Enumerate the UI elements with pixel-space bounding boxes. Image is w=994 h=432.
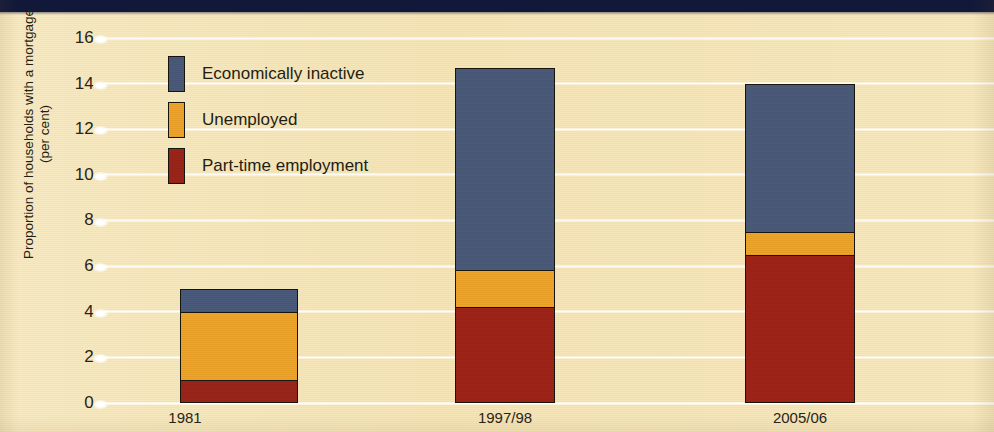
y-tick-mark-14 (93, 81, 108, 90)
bar-1981-segment-unemployed (180, 312, 298, 380)
legend-swatch-texture (169, 103, 184, 137)
y-axis-tick-labels: 16 14 12 10 8 6 4 2 0 (48, 38, 94, 403)
y-tick-mark-10 (93, 172, 108, 181)
y-tick-label-12: 12 (54, 119, 94, 139)
x-axis-label-1981: 1981 (120, 409, 250, 426)
legend-swatch-texture (169, 149, 184, 183)
legend-swatch-texture (169, 57, 184, 91)
y-tick-label-14: 14 (54, 74, 94, 94)
y-tick-mark-0 (93, 400, 108, 409)
bar-2005-06-segment-unemployed (745, 232, 855, 255)
x-axis-label-2005-06: 2005/06 (735, 409, 865, 426)
y-tick-label-8: 8 (54, 210, 94, 230)
bar-2005-06 (745, 84, 855, 403)
top-band-shadow (0, 12, 994, 15)
y-tick-label-10: 10 (54, 165, 94, 185)
y-tick-mark-12 (93, 126, 108, 135)
bar-1997-98-segment-economically-inactive (455, 68, 555, 270)
legend-label-part-time-employment: Part-time employment (202, 156, 368, 176)
y-axis-title-line-1: Proportion of households with a mortgage (21, 0, 37, 284)
legend-swatch-part-time-employment (168, 148, 185, 184)
segment-texture (456, 308, 554, 402)
legend-swatch-unemployed (168, 102, 185, 138)
bar-1981-segment-economically-inactive (180, 289, 298, 312)
y-tick-mark-6 (93, 263, 108, 272)
segment-texture (456, 69, 554, 270)
top-decorative-band (0, 0, 994, 12)
bar-2005-06-segment-part-time-employment (745, 255, 855, 403)
segment-texture (181, 290, 297, 312)
plot-area (104, 38, 994, 403)
bar-1997-98-segment-part-time-employment (455, 307, 555, 403)
bar-1981 (180, 289, 298, 403)
y-tick-label-2: 2 (54, 347, 94, 367)
bar-1997-98 (455, 68, 555, 403)
segment-texture (746, 256, 854, 402)
segment-texture (456, 271, 554, 308)
legend-label-unemployed: Unemployed (202, 110, 297, 130)
y-tick-mark-8 (93, 218, 108, 227)
y-tick-label-6: 6 (54, 256, 94, 276)
chart-figure: Proportion of households with a mortgage… (0, 0, 994, 432)
y-tick-mark-4 (93, 309, 108, 318)
legend-label-economically-inactive: Economically inactive (202, 64, 365, 84)
gridline-16 (104, 37, 994, 40)
bar-1997-98-segment-unemployed (455, 270, 555, 308)
bar-1981-segment-part-time-employment (180, 380, 298, 403)
x-axis-label-1997-98: 1997/98 (440, 409, 570, 426)
y-tick-label-4: 4 (54, 302, 94, 322)
y-tick-mark-2 (93, 354, 108, 363)
y-tick-mark-16 (93, 35, 108, 44)
bar-2005-06-segment-economically-inactive (745, 84, 855, 232)
legend-swatch-economically-inactive (168, 56, 185, 92)
segment-texture (181, 381, 297, 402)
segment-texture (181, 313, 297, 380)
segment-texture (746, 85, 854, 232)
y-tick-label-16: 16 (54, 28, 94, 48)
y-tick-label-0: 0 (54, 393, 94, 413)
segment-texture (746, 233, 854, 255)
